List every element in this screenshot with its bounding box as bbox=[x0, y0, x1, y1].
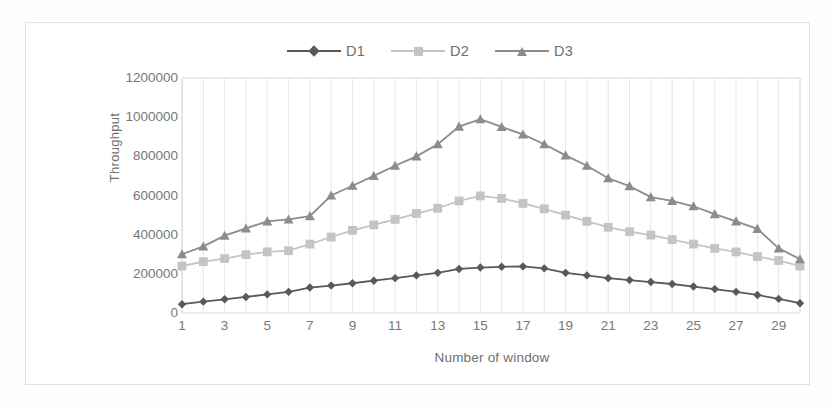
data-point-marker bbox=[306, 283, 314, 291]
data-point-marker bbox=[519, 262, 527, 270]
square-marker-icon bbox=[414, 47, 423, 56]
data-point-marker bbox=[540, 204, 549, 213]
data-point-marker bbox=[284, 246, 293, 255]
data-point-marker bbox=[455, 265, 463, 273]
chart-figure: D1 D2 D3 0200000400000600000800000100000… bbox=[0, 0, 835, 408]
plot-area: 020000040000060000080000010000001200000 … bbox=[0, 0, 835, 408]
data-point-marker bbox=[774, 295, 782, 303]
data-point-marker bbox=[199, 297, 207, 305]
grid-lines bbox=[182, 78, 800, 313]
data-point-marker bbox=[497, 263, 505, 271]
data-point-marker bbox=[539, 139, 549, 148]
x-tick-label: 5 bbox=[252, 318, 282, 333]
data-point-marker bbox=[263, 248, 272, 257]
data-point-marker bbox=[753, 252, 762, 261]
data-point-marker bbox=[412, 271, 420, 279]
data-point-marker bbox=[710, 244, 719, 253]
data-point-marker bbox=[583, 271, 591, 279]
data-point-marker bbox=[732, 288, 740, 296]
data-point-marker bbox=[412, 209, 421, 218]
series-d1 bbox=[178, 262, 804, 308]
data-point-marker bbox=[497, 194, 506, 203]
data-point-marker bbox=[242, 293, 250, 301]
data-point-marker bbox=[326, 191, 336, 200]
x-tick-label: 7 bbox=[295, 318, 325, 333]
data-point-marker bbox=[475, 114, 485, 123]
data-point-marker bbox=[476, 191, 485, 200]
x-tick-label: 29 bbox=[764, 318, 794, 333]
series-line-d3 bbox=[182, 119, 800, 259]
x-tick-label: 15 bbox=[465, 318, 495, 333]
data-point-marker bbox=[284, 288, 292, 296]
data-point-marker bbox=[689, 240, 698, 249]
data-point-marker bbox=[434, 269, 442, 277]
x-tick-label: 11 bbox=[380, 318, 410, 333]
data-point-marker bbox=[348, 226, 357, 235]
data-point-marker bbox=[519, 199, 528, 208]
data-point-marker bbox=[732, 248, 741, 257]
data-point-marker bbox=[625, 227, 634, 236]
x-tick-label: 23 bbox=[636, 318, 666, 333]
data-point-marker bbox=[178, 300, 186, 308]
y-tick-label: 200000 bbox=[94, 267, 178, 281]
x-axis-title: Number of window bbox=[182, 350, 802, 365]
series-layer bbox=[177, 114, 805, 308]
data-point-marker bbox=[220, 295, 228, 303]
data-point-marker bbox=[476, 263, 484, 271]
data-point-marker bbox=[455, 197, 464, 206]
data-point-marker bbox=[711, 285, 719, 293]
y-axis-title: Throughput bbox=[107, 83, 122, 213]
data-point-marker bbox=[220, 254, 229, 263]
series-line-d1 bbox=[182, 266, 800, 304]
x-tick-label: 27 bbox=[721, 318, 751, 333]
data-point-marker bbox=[795, 254, 805, 263]
y-tick-label: 0 bbox=[94, 306, 178, 320]
x-tick-label: 13 bbox=[423, 318, 453, 333]
data-point-marker bbox=[646, 192, 656, 201]
data-point-marker bbox=[582, 217, 591, 226]
data-point-marker bbox=[647, 278, 655, 286]
data-point-marker bbox=[668, 280, 676, 288]
data-point-marker bbox=[411, 151, 421, 160]
data-point-marker bbox=[753, 291, 761, 299]
data-point-marker bbox=[603, 173, 613, 182]
x-tick-label: 17 bbox=[508, 318, 538, 333]
data-point-marker bbox=[796, 299, 804, 307]
data-point-marker bbox=[390, 161, 400, 170]
data-point-marker bbox=[327, 281, 335, 289]
data-point-marker bbox=[582, 161, 592, 170]
series-line-d2 bbox=[182, 196, 800, 266]
triangle-marker-icon bbox=[517, 47, 527, 56]
x-tick-label: 21 bbox=[593, 318, 623, 333]
series-d3 bbox=[177, 114, 805, 263]
data-point-marker bbox=[433, 204, 442, 213]
data-point-marker bbox=[689, 282, 697, 290]
data-point-marker bbox=[668, 235, 677, 244]
data-point-marker bbox=[646, 231, 655, 240]
x-tick-label: 1 bbox=[167, 318, 197, 333]
data-point-marker bbox=[604, 223, 613, 232]
data-point-marker bbox=[391, 215, 400, 224]
x-tick-label: 19 bbox=[551, 318, 581, 333]
data-point-marker bbox=[347, 181, 357, 190]
data-point-marker bbox=[198, 241, 208, 250]
data-point-marker bbox=[369, 171, 379, 180]
x-tick-label: 25 bbox=[678, 318, 708, 333]
x-tick-label: 3 bbox=[210, 318, 240, 333]
data-point-marker bbox=[604, 274, 612, 282]
data-point-marker bbox=[305, 240, 314, 249]
data-point-marker bbox=[561, 150, 571, 159]
data-point-marker bbox=[774, 256, 783, 265]
data-point-marker bbox=[178, 262, 187, 271]
data-point-marker bbox=[391, 274, 399, 282]
x-tick-label: 9 bbox=[337, 318, 367, 333]
data-point-marker bbox=[561, 269, 569, 277]
data-point-marker bbox=[263, 290, 271, 298]
data-point-marker bbox=[540, 264, 548, 272]
axis-lines bbox=[182, 78, 800, 313]
series-d2 bbox=[178, 191, 805, 270]
data-point-marker bbox=[199, 257, 208, 266]
data-point-marker bbox=[242, 250, 251, 259]
data-point-marker bbox=[348, 279, 356, 287]
data-point-marker bbox=[370, 276, 378, 284]
